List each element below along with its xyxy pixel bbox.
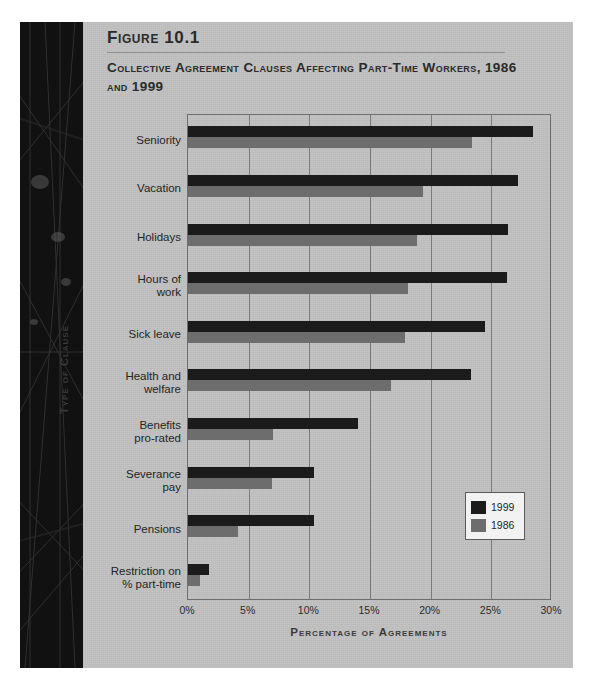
- bar-1986-sick-leave: [188, 332, 405, 343]
- y-axis-label-7: Severancepay: [71, 468, 181, 494]
- legend-entry-1999: 1999: [471, 498, 524, 516]
- bar-1999-holidays: [188, 224, 508, 235]
- bar-1999-seniority: [188, 126, 533, 137]
- figure-title: Collective Agreement Clauses Affecting P…: [107, 58, 527, 96]
- x-tick-label-0%: 0%: [167, 604, 207, 616]
- legend-label-1999: 1999: [491, 501, 514, 513]
- y-axis-label-9: Restriction on% part-time: [71, 565, 181, 591]
- bar-1986-health-and-welfare: [188, 380, 391, 391]
- bar-1986-vacation: [188, 186, 423, 197]
- bar-1999-hours-of-work: [188, 272, 507, 283]
- x-axis-title: Percentage of Agreements: [187, 626, 551, 638]
- legend-swatch-icon-1999: [471, 501, 486, 514]
- y-axis-title: Type of Clause: [58, 325, 70, 414]
- chart-legend: 1999 1986: [465, 492, 525, 540]
- y-axis-label-2: Holidays: [71, 231, 181, 244]
- bar-1986-seniority: [188, 137, 472, 148]
- bar-1986-pensions: [188, 526, 238, 537]
- bar-1999-severance-pay: [188, 467, 314, 478]
- bar-1986-restriction-on-part-time: [188, 575, 200, 586]
- x-tick-label-15%: 15%: [349, 604, 389, 616]
- y-axis-labels: Type of Clause SeniorityVacationHolidays…: [63, 114, 181, 600]
- legend-swatch-icon-1986: [471, 519, 486, 532]
- bar-1986-severance-pay: [188, 478, 272, 489]
- x-tick-label-20%: 20%: [410, 604, 450, 616]
- header-divider: [107, 52, 505, 53]
- y-axis-label-0: Seniority: [71, 134, 181, 147]
- figure-label: Figure 10.1: [107, 28, 200, 48]
- bar-1986-holidays: [188, 235, 417, 246]
- legend-entry-1986: 1986: [471, 516, 524, 534]
- x-tick-label-30%: 30%: [531, 604, 571, 616]
- bar-1986-hours-of-work: [188, 283, 408, 294]
- bar-1999-restriction-on-part-time: [188, 564, 209, 575]
- figure-page: Figure 10.1 Collective Agreement Clauses…: [0, 0, 593, 692]
- x-tick-label-25%: 25%: [470, 604, 510, 616]
- y-axis-label-1: Vacation: [71, 182, 181, 195]
- bar-1999-vacation: [188, 175, 518, 186]
- bar-1999-sick-leave: [188, 321, 485, 332]
- y-axis-label-4: Sick leave: [71, 328, 181, 341]
- legend-label-1986: 1986: [491, 519, 514, 531]
- y-axis-label-6: Benefitspro-rated: [71, 419, 181, 445]
- y-axis-label-8: Pensions: [71, 523, 181, 536]
- x-tick-label-10%: 10%: [288, 604, 328, 616]
- x-tick-label-5%: 5%: [228, 604, 268, 616]
- bar-1999-benefits-pro-rated: [188, 418, 358, 429]
- bar-1986-benefits-pro-rated: [188, 429, 273, 440]
- y-axis-label-3: Hours ofwork: [71, 273, 181, 299]
- y-axis-label-5: Health andwelfare: [71, 370, 181, 396]
- bar-1999-health-and-welfare: [188, 369, 471, 380]
- bar-1999-pensions: [188, 515, 314, 526]
